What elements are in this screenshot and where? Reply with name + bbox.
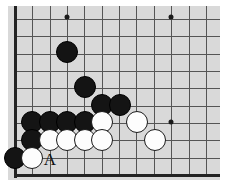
star-point-lower-right xyxy=(169,120,174,125)
point-label-a: A xyxy=(44,151,56,168)
go-board-diagram: A xyxy=(0,0,228,189)
grid-line-horizontal xyxy=(15,54,220,55)
grid-line-horizontal xyxy=(15,19,220,20)
white-stone[interactable] xyxy=(144,129,166,151)
star-point-upper-left xyxy=(65,15,70,20)
board-edge-bottom xyxy=(14,174,220,177)
white-stone[interactable] xyxy=(91,129,113,151)
grid-line-horizontal xyxy=(15,36,220,37)
grid-line-vertical xyxy=(136,6,137,175)
grid-line-horizontal xyxy=(15,71,220,72)
black-stone[interactable] xyxy=(74,76,96,98)
grid-line-vertical xyxy=(189,6,190,175)
grid-line-vertical xyxy=(206,6,207,175)
black-stone[interactable] xyxy=(56,41,78,63)
grid-line-vertical xyxy=(171,6,172,175)
star-point-upper-right xyxy=(169,15,174,20)
grid-line-vertical xyxy=(119,6,120,175)
black-stone[interactable] xyxy=(109,94,131,116)
white-stone[interactable] xyxy=(21,147,43,169)
white-stone[interactable] xyxy=(126,111,148,133)
grid-line-horizontal xyxy=(15,88,220,89)
